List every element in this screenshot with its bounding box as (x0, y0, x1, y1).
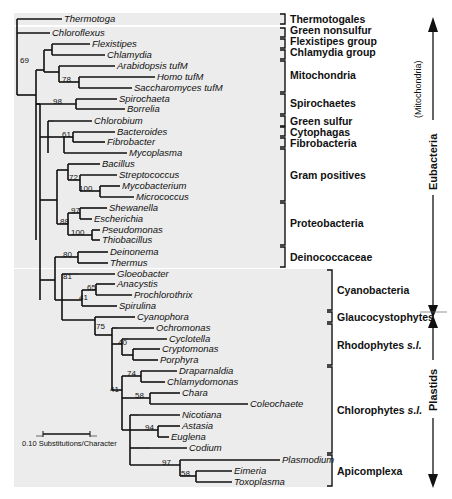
side-axis-plastids: Plastids (427, 315, 439, 488)
taxon-label: Chara (182, 387, 208, 398)
group-name: Mitochondria (290, 69, 356, 81)
bootstrap-value: 97 (162, 458, 171, 467)
taxon-label: Cryptomonas (162, 343, 219, 354)
group-label: Fibrobacteria (290, 137, 357, 149)
bootstrap-value: 97 (71, 206, 80, 215)
taxon-label: Streptococcus (119, 169, 179, 180)
bootstrap-value: 100 (71, 228, 85, 237)
group-label: Cyanobacteria (337, 284, 410, 296)
bootstrap-value: 41 (79, 293, 88, 302)
taxon-label: Arabidopsis tufM (116, 60, 188, 71)
group-name: Apicomplexa (337, 465, 403, 477)
bootstrap-value: 40 (118, 338, 127, 347)
eubacteria-axis-label: Eubacteria (427, 133, 439, 190)
taxon-label: Bacillus (102, 158, 135, 169)
bootstrap-value: 100 (79, 184, 93, 193)
taxon-label: Thermus (110, 257, 148, 268)
bootstrap-value: 65 (87, 283, 96, 292)
taxon-label: Spirulina (119, 300, 156, 311)
taxon-label: Thermotoga (64, 13, 115, 24)
group-label: Proteobacteria (290, 217, 364, 229)
group-name-suffix: s.l. (407, 339, 422, 351)
taxon-label: Ochromonas (156, 322, 211, 333)
group-name: Glaucocystophytes (337, 311, 434, 323)
bootstrap-value: 69 (20, 56, 29, 65)
taxon-label: Thiobacillus (102, 234, 152, 245)
taxon-label: Prochlorothrix (134, 289, 194, 300)
taxon-label: Shewanella (109, 202, 158, 213)
group-label: Gram positives (290, 169, 366, 181)
bootstrap-value: 58 (181, 469, 190, 478)
taxon-label: Cyanophora (137, 311, 189, 322)
taxon-label: Homo tufM (157, 71, 204, 82)
taxon-label: Deinonema (110, 246, 159, 257)
taxon-label: Anacystis (116, 278, 158, 289)
taxon-label: Euglena (171, 431, 206, 442)
bootstrap-value: 98 (53, 97, 62, 106)
taxon-label: Draparnaldia (179, 365, 233, 376)
group-label: Spirochaetes (290, 97, 356, 109)
group-label: Deinococcaceae (290, 251, 372, 263)
taxon-label: Saccharomyces tufM (134, 82, 223, 93)
taxon-label: Porphyra (160, 354, 199, 365)
bootstrap-value: 61 (62, 130, 71, 139)
bootstrap-value: 58 (135, 391, 144, 400)
group-name: Spirochaetes (290, 97, 356, 109)
bootstrap-value: 78 (62, 75, 71, 84)
bootstrap-value: 80 (63, 250, 72, 259)
bootstrap-value: 81 (63, 272, 72, 281)
taxon-label: Fibrobacter (107, 136, 156, 147)
taxon-label: Chlorobium (94, 115, 143, 126)
scale-bar-label: 0.10 Substitutions/Character (22, 439, 117, 448)
group-name: Fibrobacteria (290, 137, 357, 149)
plastids-axis-label: Plastids (427, 369, 439, 411)
bootstrap-value: 88 (60, 217, 69, 226)
group-label: Chlamydia group (290, 46, 376, 58)
group-label: Chlorophytes s.l. (337, 404, 422, 416)
bootstrap-value: 74 (127, 369, 136, 378)
group-name: Deinococcaceae (290, 251, 372, 263)
taxon-label: Codium (189, 442, 222, 453)
group-name: Proteobacteria (290, 217, 364, 229)
taxon-label: Mycoplasma (129, 147, 182, 158)
group-name: Chlamydia group (290, 46, 376, 58)
taxon-label: Coleochaete (250, 398, 303, 409)
arrow-down-icon (428, 474, 438, 488)
phylogenetic-tree-figure: ThermotogaChloroflexusFlexistipesChlamyd… (0, 0, 452, 499)
taxon-label: Chlamydia (107, 49, 152, 60)
taxon-label: Flexistipes (92, 38, 137, 49)
group-name: Cyanobacteria (337, 284, 410, 296)
group-name: Gram positives (290, 169, 366, 181)
bootstrap-value: 75 (96, 322, 105, 331)
bootstrap-value: 41 (110, 385, 119, 394)
side-axis-eubacteria: (Mitochondria) Eubacteria (413, 17, 439, 318)
group-name: Chlorophytes (337, 404, 408, 416)
group-name-suffix: s.l. (408, 404, 423, 416)
taxon-label: Eimeria (234, 465, 266, 476)
taxon-label: Nicotiana (182, 409, 222, 420)
taxon-label: Chloroflexus (52, 27, 105, 38)
group-name: Rhodophytes (337, 339, 407, 351)
group-label: Rhodophytes s.l. (337, 339, 422, 351)
taxon-label: Mycobacterium (122, 180, 186, 191)
arrow-up-icon (428, 17, 438, 32)
taxon-label: Toxoplasma (234, 476, 285, 487)
bootstrap-value: 94 (145, 423, 154, 432)
figure-caption-cutoff (0, 493, 452, 499)
bootstrap-value: 72 (69, 173, 78, 182)
taxon-label: Plasmodium (282, 454, 334, 465)
group-label: Apicomplexa (337, 465, 403, 477)
taxon-label: Borrelia (127, 103, 160, 114)
mitochondria-axis-label: (Mitochondria) (413, 60, 423, 118)
taxon-label: Astasia (181, 420, 213, 431)
group-label: Mitochondria (290, 69, 356, 81)
taxon-label: Micrococcus (136, 191, 189, 202)
taxon-label: Chlamydomonas (167, 376, 239, 387)
taxon-label: Escherichia (94, 213, 143, 224)
group-label: Glaucocystophytes (337, 311, 434, 323)
